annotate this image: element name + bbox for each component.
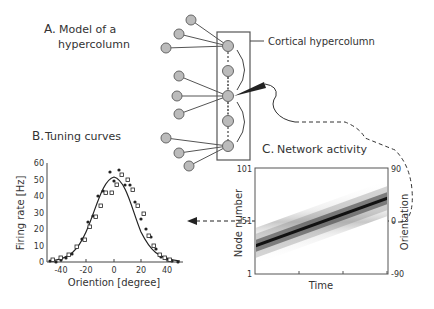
- input-neurons: [161, 15, 196, 171]
- panel-a-title-line1: Model of a: [59, 23, 116, 36]
- y-axis-label: Firing rate [Hz]: [15, 176, 26, 251]
- column-neurons: [223, 41, 245, 152]
- svg-text:40: 40: [162, 266, 172, 275]
- y-tick-labels: 0 10 20 30 40 50 60: [34, 159, 44, 267]
- svg-text:20: 20: [34, 225, 44, 234]
- x-tick-labels: -40 -20 0 20 40: [54, 266, 172, 275]
- svg-text:50: 50: [34, 176, 44, 185]
- panel-a-title-line2: hypercolumn: [58, 38, 130, 51]
- svg-text:60: 60: [34, 159, 44, 168]
- svg-text:-40: -40: [54, 266, 67, 275]
- network-activity-plot: 101 51 1 90 0 -90 Time Node number Orien…: [233, 165, 410, 291]
- x-axis-label: Oriention [degree]: [68, 277, 161, 288]
- svg-text:40: 40: [34, 192, 44, 201]
- tuning-curve-plot: 0 10 20 30 40 50 60 -40 -20 0 20 40 Orie…: [15, 159, 183, 288]
- panel-c-letter: C.: [262, 142, 274, 156]
- fit-curve: [50, 177, 180, 261]
- arrow-head-icon: [187, 217, 197, 225]
- svg-text:-90: -90: [391, 270, 404, 279]
- svg-text:30: 30: [34, 209, 44, 218]
- svg-text:20: 20: [136, 266, 146, 275]
- svg-text:0: 0: [39, 258, 44, 267]
- open-data-points: [51, 173, 172, 262]
- svg-text:90: 90: [391, 165, 401, 174]
- electrode-wire: [265, 84, 295, 122]
- svg-text:10: 10: [34, 242, 44, 251]
- panel-b-title: Tuning curves: [44, 130, 121, 143]
- svg-text:0: 0: [111, 266, 116, 275]
- cortical-hypercolumn-label: Cortical hypercolumn: [268, 36, 375, 47]
- svg-text:0: 0: [391, 217, 396, 226]
- panel-a-letter: A.: [44, 22, 56, 36]
- time-axis-label: Time: [308, 280, 333, 291]
- svg-text:1: 1: [247, 270, 252, 279]
- svg-text:101: 101: [237, 165, 252, 174]
- svg-text:-20: -20: [79, 266, 92, 275]
- panel-b-letter: B.: [32, 129, 44, 143]
- node-number-axis-label: Node number: [233, 188, 244, 257]
- orientation-axis-label: Orientation: [399, 194, 410, 250]
- panel-a-title: A. Model of a hypercolumn: [44, 22, 130, 51]
- panel-c-title: Network activity: [277, 143, 367, 156]
- filled-data-points: [48, 168, 179, 263]
